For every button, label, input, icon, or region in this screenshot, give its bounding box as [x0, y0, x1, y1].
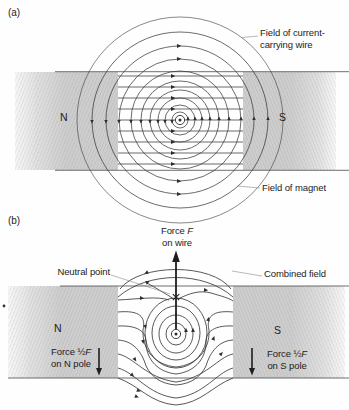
wire-current-out-icon-b [171, 329, 180, 338]
force-on-wire-label: Force F on wire [148, 225, 206, 248]
force-f-arrow [172, 251, 180, 330]
force-on-s-pole-line2: on S pole [248, 360, 326, 372]
neutral-point-label: Neutral point [28, 266, 110, 278]
force-on-s-pole-label: Force ½F on S pole [248, 348, 326, 371]
pole-n-label-b: N [54, 323, 61, 335]
panel-b-tag: (b) [8, 215, 20, 227]
force-on-n-pole-line2: on N pole [32, 358, 110, 370]
force-on-n-pole-line1: Force ½F [32, 346, 110, 358]
force-on-wire-line2: on wire [148, 237, 206, 249]
pole-n-label-a: N [60, 112, 67, 124]
print-artifact-dot [3, 305, 6, 308]
label-leader-lines [111, 36, 262, 294]
pole-s-label-a: S [279, 112, 286, 124]
combined-field-label: Combined field [264, 268, 326, 280]
force-on-n-pole-label: Force ½F on N pole [32, 346, 110, 369]
magnet-field-label: Field of magnet [262, 182, 326, 194]
force-on-wire-line1: Force F [148, 225, 206, 237]
pole-s-label-b: S [274, 325, 281, 337]
force-on-s-pole-line1: Force ½F [248, 348, 326, 360]
panel-a-tag: (a) [8, 7, 20, 19]
wire-field-label-line1: Field of current- [260, 27, 325, 39]
wire-field-label-line2: carrying wire [260, 39, 325, 51]
wire-current-out-icon [175, 115, 184, 124]
physics-figure: (a) Field of current- carrying wire Fiel… [0, 0, 349, 410]
wire-field-label: Field of current- carrying wire [260, 27, 325, 50]
